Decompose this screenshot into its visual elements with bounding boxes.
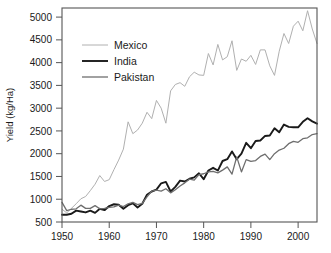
y-tick-label: 2000 (30, 148, 53, 159)
series-line-mexico (62, 11, 317, 213)
y-tick-label: 500 (35, 217, 52, 228)
y-tick-label: 3500 (30, 80, 53, 91)
y-tick-label: 5000 (30, 12, 53, 23)
series-layer (62, 11, 317, 215)
x-tick-label: 1970 (145, 231, 168, 242)
x-tick-label: 1980 (193, 231, 216, 242)
yield-line-chart: 500100015002000250030003500400045005000 … (0, 0, 331, 253)
y-tick-label: 4000 (30, 57, 53, 68)
plot-frame (62, 8, 317, 222)
chart-legend: MexicoIndiaPakistan (82, 39, 154, 83)
x-tick-label: 1960 (98, 231, 121, 242)
y-tick-label: 4500 (30, 34, 53, 45)
y-tick-label: 3000 (30, 103, 53, 114)
x-tick-label: 1950 (51, 231, 74, 242)
legend-label-india: India (114, 55, 137, 67)
y-tick-label: 2500 (30, 126, 53, 137)
y-axis-ticks: 500100015002000250030003500400045005000 (30, 12, 62, 228)
x-axis-ticks: 195019601970198019902000 (51, 222, 310, 242)
y-tick-label: 1000 (30, 194, 53, 205)
legend-label-pakistan: Pakistan (114, 71, 154, 83)
legend-label-mexico: Mexico (114, 39, 147, 51)
series-line-india (62, 118, 317, 215)
series-line-pakistan (62, 134, 317, 211)
x-tick-label: 2000 (287, 231, 310, 242)
chart-canvas: 500100015002000250030003500400045005000 … (0, 0, 331, 253)
x-tick-label: 1990 (240, 231, 263, 242)
y-axis-title: Yield (kg/Ha) (4, 88, 15, 143)
y-tick-label: 1500 (30, 171, 53, 182)
